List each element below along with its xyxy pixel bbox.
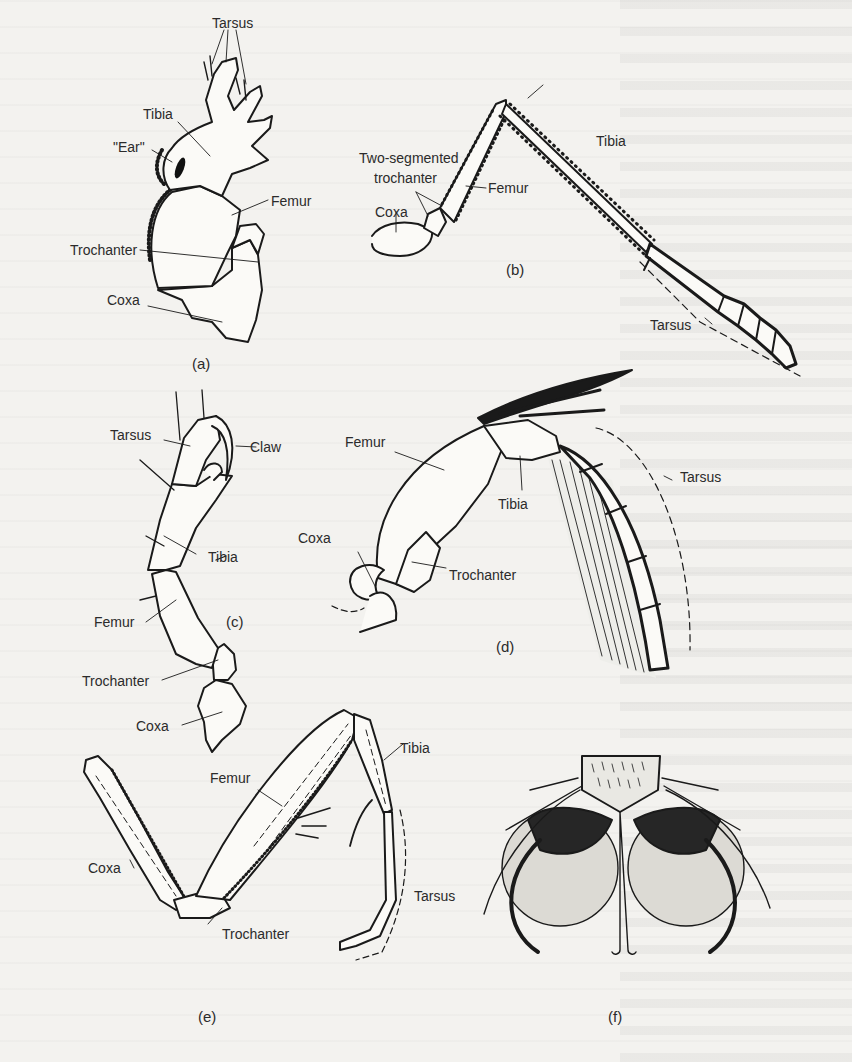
panel-d-drawing xyxy=(332,370,690,678)
panel-e-drawing xyxy=(84,710,406,960)
panel-c-label-tarsus: Tarsus xyxy=(110,427,151,443)
panel-b-label-coxa: Coxa xyxy=(375,204,408,220)
panel-b-label-femur: Femur xyxy=(488,180,528,196)
panel-a-label-tibia: Tibia xyxy=(143,106,173,122)
panel-e-caption: (e) xyxy=(198,1008,216,1025)
panel-d-label-tarsus: Tarsus xyxy=(680,469,721,485)
panel-a-label-trochanter: Trochanter xyxy=(70,242,137,258)
panel-b-label-two-segmented: Two-segmented xyxy=(359,150,459,166)
panel-d-caption: (d) xyxy=(496,638,514,655)
panel-e-label-femur: Femur xyxy=(210,770,250,786)
panel-c-label-trochanter: Trochanter xyxy=(82,673,149,689)
panel-a-label-femur: Femur xyxy=(271,193,311,209)
panel-d-label-femur: Femur xyxy=(345,434,385,450)
panel-e-label-coxa: Coxa xyxy=(88,860,121,876)
panel-f-caption: (f) xyxy=(608,1008,622,1025)
panel-a-label-coxa: Coxa xyxy=(107,292,140,308)
panel-a-label-tarsus: Tarsus xyxy=(212,15,253,31)
panel-c-label-tibia: Tibia xyxy=(208,549,238,565)
panel-c-label-femur: Femur xyxy=(94,614,134,630)
panel-a-drawing xyxy=(140,30,272,342)
panel-b-label-tarsus: Tarsus xyxy=(650,317,691,333)
panel-b-label-tibia: Tibia xyxy=(596,133,626,149)
panel-a-caption: (a) xyxy=(192,355,210,372)
panel-b-label-trochanter: trochanter xyxy=(374,170,437,186)
panel-b-caption: (b) xyxy=(506,261,524,278)
panel-e-label-tarsus: Tarsus xyxy=(414,888,455,904)
panel-c-caption: (c) xyxy=(226,613,244,630)
panel-c-drawing xyxy=(140,390,256,752)
panel-b-drawing xyxy=(372,85,800,376)
panel-e-label-tibia: Tibia xyxy=(400,740,430,756)
panel-c-label-claw: Claw xyxy=(250,439,281,455)
panel-c-label-coxa: Coxa xyxy=(136,718,169,734)
panel-d-label-tibia: Tibia xyxy=(498,496,528,512)
panel-a-label-ear: "Ear" xyxy=(113,139,145,155)
panel-d-label-coxa: Coxa xyxy=(298,530,331,546)
panel-d-label-trochanter: Trochanter xyxy=(449,567,516,583)
panel-f-drawing xyxy=(484,756,770,954)
panel-e-label-trochanter: Trochanter xyxy=(222,926,289,942)
